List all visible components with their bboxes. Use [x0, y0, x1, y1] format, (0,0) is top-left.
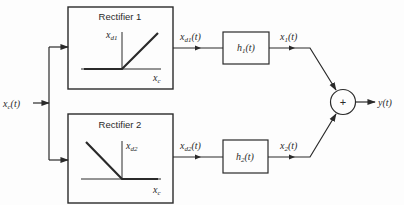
- x2-arrow-icon: [289, 155, 295, 160]
- filter2-label: h2(t): [236, 151, 255, 164]
- x1-arrow-icon: [289, 46, 295, 51]
- signal-x1-label: x1(t): [279, 31, 298, 44]
- summing-junction: +: [331, 90, 356, 115]
- rectifier2-x-label: xc: [152, 184, 161, 197]
- rectifier1-title: Rectifier 1: [99, 11, 142, 22]
- filter1-label: h1(t): [237, 42, 256, 55]
- d2-arrow-icon: [195, 155, 201, 160]
- rectifier1-x-label: xc: [152, 72, 161, 85]
- rectifier1-y-label: xd1: [105, 29, 117, 42]
- output-label: y(t): [377, 97, 393, 109]
- block-diagram: xc(t) Rectifier 1 xd1 xc Rectifier 2 xd2…: [0, 0, 404, 205]
- x2-line: [268, 114, 336, 157]
- signal-x2-label: x2(t): [279, 140, 298, 153]
- d1-arrow-icon: [195, 46, 201, 51]
- rectifier1-curve: [84, 33, 158, 69]
- plus-symbol: +: [340, 96, 346, 108]
- input-label: xc(t): [2, 98, 21, 111]
- input-signal: xc(t): [2, 47, 68, 160]
- filter2-block: h2(t): [223, 140, 268, 173]
- filter1-block: h1(t): [223, 32, 269, 64]
- rectifier2-block: Rectifier 2 xd2 xc: [68, 114, 173, 203]
- rectifier1-block: Rectifier 1 xd1 xc: [68, 7, 173, 89]
- x1-line: [269, 48, 336, 90]
- signal-d1-label: xd1(t): [179, 31, 202, 44]
- signal-d2-label: xd2(t): [179, 140, 202, 153]
- rectifier2-title: Rectifier 2: [99, 119, 142, 130]
- rectifier2-y-label: xd2: [125, 140, 138, 153]
